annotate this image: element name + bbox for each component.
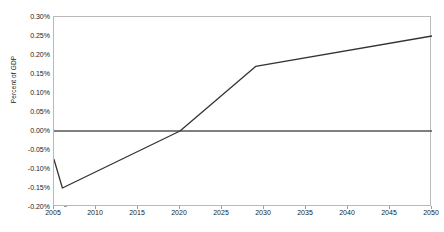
x-axis-tick-label: 2050 xyxy=(411,209,444,216)
x-axis-tick-label: 2005 xyxy=(33,209,73,216)
x-axis-tick-label: 2025 xyxy=(201,209,241,216)
x-axis-tick-label: 2020 xyxy=(159,209,199,216)
x-axis-tick-label: 2015 xyxy=(117,209,157,216)
x-axis-tick-label: 2040 xyxy=(327,209,367,216)
x-axis-tick-label: 2045 xyxy=(369,209,409,216)
plot-area xyxy=(53,16,431,206)
x-axis-tick-label: 2030 xyxy=(243,209,283,216)
x-axis-tick-label: 2010 xyxy=(75,209,115,216)
chart-svg xyxy=(54,17,432,207)
x-axis-tick-label: 2035 xyxy=(285,209,325,216)
data-series-line xyxy=(54,36,432,188)
